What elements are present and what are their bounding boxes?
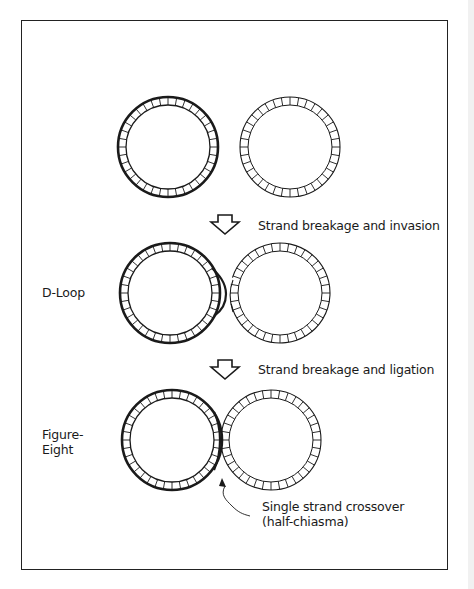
base-pair-rung — [130, 115, 136, 120]
dna-outer-strand — [118, 97, 218, 197]
down-arrow-icon — [211, 360, 239, 379]
base-pair-rung — [189, 183, 193, 190]
base-pair-rung — [204, 168, 211, 172]
base-pair-rung — [243, 161, 251, 164]
base-pair-rung — [248, 255, 253, 261]
base-pair-rung — [193, 476, 197, 483]
base-pair-rung — [209, 276, 217, 279]
base-pair-rung — [132, 320, 138, 325]
base-pair-rung — [138, 255, 143, 261]
base-pair-rung — [329, 130, 337, 133]
down-arrow-icon — [211, 215, 239, 234]
crossover-pointer-icon — [219, 478, 250, 516]
base-pair-rung — [304, 100, 307, 108]
base-pair-rung — [321, 284, 329, 285]
base-pair-rung — [206, 314, 213, 318]
base-pair-rung — [287, 244, 288, 252]
base-pair-rung — [127, 314, 134, 318]
base-pair-rung — [265, 183, 269, 190]
base-pair-rung — [281, 98, 282, 106]
base-pair-rung — [155, 479, 158, 487]
dna-inner-strand — [126, 105, 210, 189]
step-label-invasion: Strand breakage and invasion — [258, 218, 440, 233]
base-pair-rung — [191, 250, 195, 257]
base-pair-rung — [287, 334, 288, 342]
base-pair-rung — [182, 100, 185, 108]
base-pair-rung — [136, 109, 141, 115]
base-pair-rung — [127, 268, 134, 272]
base-pair-rung — [186, 479, 189, 487]
base-pair-rung — [312, 447, 320, 448]
base-pair-rung — [129, 461, 136, 465]
base-pair-rung — [285, 393, 288, 401]
base-pair-rung — [233, 408, 239, 413]
base-pair-rung — [195, 109, 200, 115]
base-pair-rung — [307, 325, 312, 331]
base-pair-rung — [151, 186, 154, 194]
base-pair-rung — [239, 472, 244, 478]
dna-outer-strand — [120, 243, 220, 343]
annotation-half-chiasma: (half-chiasma) — [262, 514, 349, 529]
base-pair-rung — [242, 261, 248, 266]
base-pair-rung — [151, 100, 154, 108]
dna-inner-strand — [128, 251, 212, 335]
base-pair-rung — [143, 183, 147, 190]
base-pair-rung — [265, 104, 269, 111]
base-pair-rung — [233, 307, 241, 310]
base-pair-rung — [125, 454, 133, 457]
base-pair-rung — [204, 467, 210, 472]
base-pair-rung — [200, 115, 206, 120]
base-pair-rung — [121, 130, 129, 133]
base-pair-rung — [224, 454, 232, 457]
base-pair-rung — [312, 431, 320, 432]
base-pair-rung — [134, 467, 140, 472]
base-pair-rung — [204, 408, 210, 413]
stage-label-figure-eight-2: Eight — [42, 442, 73, 457]
base-pair-rung — [184, 332, 187, 340]
base-pair-rung — [255, 250, 259, 257]
base-pair-rung — [271, 334, 272, 342]
base-pair-rung — [222, 447, 230, 448]
base-pair-rung — [239, 402, 244, 408]
base-pair-rung — [123, 307, 131, 310]
base-pair-rung — [254, 479, 257, 487]
base-pair-rung — [237, 268, 244, 272]
base-pair-rung — [311, 183, 315, 190]
base-pair-rung — [155, 393, 158, 401]
base-pair-rung — [316, 268, 323, 272]
base-pair-rung — [292, 397, 296, 404]
base-pair-rung — [255, 329, 259, 336]
base-pair-rung — [247, 168, 254, 172]
base-pair-rung — [147, 397, 151, 404]
base-pair-rung — [319, 307, 327, 310]
base-pair-rung — [312, 261, 318, 266]
dna-outer-strand — [221, 390, 321, 490]
base-pair-rung — [193, 397, 197, 404]
base-pair-rung — [243, 130, 251, 133]
base-pair-rung — [241, 138, 249, 139]
base-pair-rung — [297, 188, 298, 196]
base-pair-rung — [237, 314, 244, 318]
dna-inner-strand — [238, 251, 322, 335]
base-pair-rung — [231, 300, 239, 301]
base-pair-rung — [153, 332, 156, 340]
base-pair-rung — [184, 246, 187, 254]
base-pair-rung — [208, 461, 215, 465]
base-pair-rung — [273, 186, 276, 194]
base-pair-rung — [228, 461, 235, 465]
stage-label-d-loop: D-Loop — [42, 285, 85, 300]
base-pair-rung — [145, 329, 149, 336]
base-pair-rung — [222, 431, 230, 432]
base-pair-rung — [138, 325, 143, 331]
base-pair-rung — [207, 161, 215, 164]
base-pair-rung — [263, 246, 266, 254]
base-pair-rung — [273, 100, 276, 108]
base-pair-rung — [136, 179, 141, 185]
base-pair-rung — [301, 329, 305, 336]
base-pair-rung — [125, 122, 132, 126]
base-pair-rung — [297, 98, 298, 106]
base-pair-rung — [233, 276, 241, 279]
base-pair-rung — [247, 122, 254, 126]
base-pair-rung — [281, 188, 282, 196]
base-pair-rung — [312, 320, 318, 325]
